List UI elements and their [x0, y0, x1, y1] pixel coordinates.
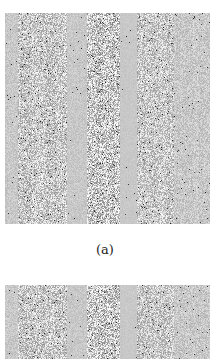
figure-panel-a: [5, 13, 210, 224]
panel-a-caption: (a): [0, 242, 210, 257]
noise-image-a: [5, 13, 210, 224]
figure-panel-b: [5, 285, 210, 359]
noise-image-b: [5, 285, 210, 359]
